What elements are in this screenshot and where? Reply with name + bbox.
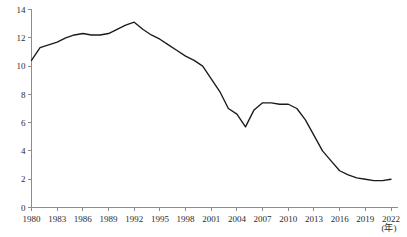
- y-axis-labels: 02468101214: [17, 5, 27, 213]
- x-tick-label: 2016: [331, 214, 350, 224]
- x-axis-unit-label: (年): [382, 222, 397, 233]
- y-tick-label: 0: [21, 203, 26, 213]
- x-tick-label: 2007: [254, 214, 273, 224]
- y-tick-label: 2: [21, 174, 26, 184]
- y-tick-label: 4: [21, 146, 26, 156]
- line-chart: 02468101214 1980198319861989199219951998…: [0, 0, 407, 237]
- x-tick-label: 2004: [228, 214, 247, 224]
- y-tick-label: 8: [21, 90, 26, 100]
- x-tick-label: 1995: [151, 214, 170, 224]
- y-axis-ticks: [28, 10, 32, 208]
- data-series-line: [32, 22, 392, 180]
- x-tick-label: 2001: [202, 214, 220, 224]
- x-axis-ticks: [32, 208, 392, 212]
- y-tick-label: 10: [17, 61, 27, 71]
- x-tick-label: 1998: [177, 214, 196, 224]
- y-tick-label: 14: [17, 5, 27, 15]
- x-tick-label: 2013: [305, 214, 324, 224]
- x-tick-label: 1980: [23, 214, 42, 224]
- x-tick-label: 1989: [100, 214, 119, 224]
- x-tick-label: 1992: [125, 214, 143, 224]
- y-tick-label: 12: [17, 33, 26, 43]
- chart-container: 02468101214 1980198319861989199219951998…: [0, 0, 407, 237]
- x-tick-label: 1983: [48, 214, 67, 224]
- x-axis-labels: 1980198319861989199219951998200120042007…: [23, 214, 401, 224]
- x-tick-label: 2010: [279, 214, 298, 224]
- x-tick-label: 2022: [382, 214, 400, 224]
- x-tick-label: 2019: [356, 214, 375, 224]
- y-tick-label: 6: [21, 118, 26, 128]
- x-tick-label: 1986: [74, 214, 93, 224]
